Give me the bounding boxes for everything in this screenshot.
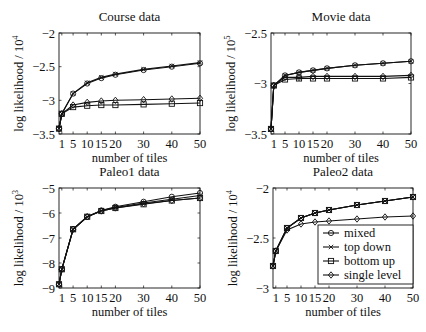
y-axis-exponent: 5 (222, 35, 232, 39)
legend: mixedtop downbottom upsingle level (318, 225, 413, 284)
y-tick-label: −2.5 (32, 60, 55, 74)
x-tick-label: 40 (379, 291, 392, 305)
axes-box (59, 188, 200, 288)
x-tick-label: 1 (273, 291, 279, 305)
subplot-title: Paleo1 data (99, 164, 160, 179)
x-tick-label: 40 (377, 137, 390, 151)
x-tick-label: 40 (166, 291, 179, 305)
figure: Course data15101520304050number of tiles… (0, 0, 426, 332)
x-tick-label: 5 (70, 137, 76, 151)
legend-label: single level (344, 268, 402, 282)
subplot-movie-data: Movie data15101520304050number of tiles−… (222, 9, 417, 165)
x-tick-label: 20 (109, 137, 122, 151)
y-tick-label: −7 (42, 232, 55, 246)
legend-label: bottom up (344, 254, 395, 268)
x-tick-label: 40 (166, 137, 179, 151)
x-tick-label: 1 (59, 137, 65, 151)
x-tick-label: 5 (282, 137, 288, 151)
axes-box (59, 33, 200, 134)
y-tick-label: −3.5 (32, 128, 55, 142)
x-axis-label: number of tiles (303, 151, 379, 165)
y-axis-label: log likelihood / 103 (10, 190, 26, 286)
x-tick-label: 15 (307, 137, 320, 151)
x-tick-label: 1 (59, 291, 65, 305)
x-tick-label: 15 (95, 137, 108, 151)
y-axis-label: log likelihood / 104 (10, 35, 26, 132)
y-tick-label: −5 (42, 182, 55, 196)
y-axis-exponent: 4 (224, 189, 234, 194)
legend-label: mixed (344, 226, 376, 240)
y-axis-exponent: 4 (10, 35, 20, 40)
y-tick-label: −3 (42, 94, 55, 108)
x-tick-label: 50 (194, 291, 207, 305)
x-tick-label: 10 (81, 291, 94, 305)
y-tick-label: −3 (254, 77, 267, 91)
x-axis-label: number of tiles (92, 151, 168, 165)
x-tick-label: 5 (70, 291, 76, 305)
x-tick-label: 50 (407, 291, 420, 305)
subplot-title: Paleo2 data (313, 164, 374, 179)
y-axis-label: log likelihood / 104 (224, 189, 240, 286)
y-tick-label: −2.5 (246, 232, 269, 246)
y-tick-label: −2 (256, 182, 269, 196)
x-tick-label: 20 (109, 291, 122, 305)
x-tick-label: 30 (137, 291, 150, 305)
x-axis-label: number of tiles (92, 305, 168, 319)
subplot-paleo1-data: Paleo1 data15101520304050number of tiles… (10, 164, 206, 319)
y-axis-label: log likelihood / 105 (222, 35, 238, 131)
x-tick-label: 50 (405, 137, 418, 151)
y-tick-label: −3.5 (244, 128, 267, 142)
x-tick-label: 30 (351, 291, 364, 305)
x-tick-label: 20 (323, 291, 336, 305)
subplot-title: Course data (99, 9, 161, 24)
x-tick-label: 30 (137, 137, 150, 151)
subplot-course-data: Course data15101520304050number of tiles… (10, 9, 206, 165)
y-tick-label: −9 (42, 282, 55, 296)
x-tick-label: 15 (95, 291, 108, 305)
y-tick-label: −2.5 (244, 27, 267, 41)
subplot-paleo2-data: Paleo2 data15101520304050number of tiles… (224, 164, 419, 319)
x-axis-label: number of tiles (305, 305, 381, 319)
legend-label: top down (344, 240, 392, 254)
x-tick-label: 10 (81, 137, 94, 151)
x-tick-label: 30 (349, 137, 362, 151)
subplot-title: Movie data (312, 9, 371, 24)
x-tick-label: 1 (271, 137, 277, 151)
y-tick-label: −2 (42, 27, 55, 41)
x-tick-label: 20 (321, 137, 334, 151)
y-tick-label: −8 (42, 257, 55, 271)
x-tick-label: 10 (293, 137, 306, 151)
x-tick-label: 5 (284, 291, 290, 305)
y-tick-label: −3 (256, 282, 269, 296)
x-tick-label: 10 (295, 291, 308, 305)
x-tick-label: 50 (194, 137, 207, 151)
y-axis-exponent: 3 (10, 190, 20, 194)
x-tick-label: 15 (309, 291, 322, 305)
y-tick-label: −6 (42, 207, 55, 221)
axes-box (271, 33, 411, 134)
